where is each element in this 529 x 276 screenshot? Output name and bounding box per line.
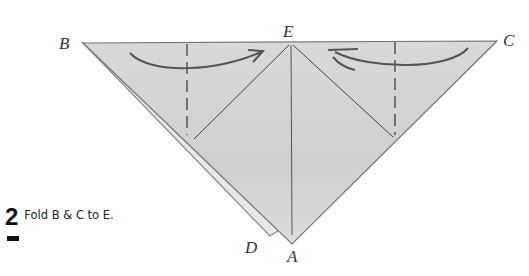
origami-fold-diagram: B C E D A bbox=[0, 0, 529, 276]
label-d: D bbox=[244, 238, 258, 257]
label-e: E bbox=[282, 22, 294, 41]
step-caption: 2 Fold B & C to E. bbox=[5, 205, 114, 229]
step-number: 2 bbox=[5, 205, 18, 229]
paper-triangle bbox=[83, 41, 497, 244]
step-instruction: Fold B & C to E. bbox=[24, 208, 113, 222]
label-a: A bbox=[286, 247, 298, 266]
label-b: B bbox=[59, 34, 70, 53]
label-c: C bbox=[503, 31, 515, 50]
step-underline bbox=[7, 236, 19, 241]
